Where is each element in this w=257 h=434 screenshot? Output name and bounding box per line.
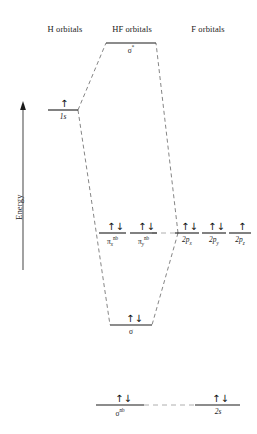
column-header-h-orbitals: H orbitals [28,24,102,34]
column-header-f-orbitals: F orbitals [172,24,244,34]
nonbonding-connectors [144,233,195,405]
orbital-label-sigma-star: σ* [111,44,151,55]
energy-axis-arrow [20,101,26,270]
electrons-sigma: ↑↓ [126,314,143,324]
orbital-label-pi-x-nb: πxnb [99,235,126,247]
electrons-f-2px: ↑↓ [181,222,198,232]
electrons-sigma-nb: ↑↓ [115,394,132,404]
correlation-lines [78,43,178,325]
orbital-label-sigma: σ [116,327,146,336]
electrons-pi-y-nb: ↑↓ [138,222,155,232]
orbital-label-sigma-nb: σnb [103,407,137,418]
orbital-label-f-2pz: 2pz [229,235,251,246]
orbital-label-f-2py: 2py [202,235,226,246]
electrons-f-2pz: ↑ [238,222,246,232]
electrons-h-1s: ↑ [60,99,68,109]
electrons-f-2s: ↑↓ [212,394,229,404]
orbital-label-f-2s: 2s [205,407,231,416]
electrons-f-2py: ↑↓ [208,222,225,232]
mo-diagram: H orbitals HF orbitals F orbitals [0,0,257,434]
orbital-label-pi-y-nb: πynb [130,235,157,247]
electrons-pi-x-nb: ↑↓ [107,222,124,232]
orbital-label-f-2px: 2px [175,235,199,246]
energy-axis-label: Energy [14,194,24,220]
orbital-label-h-1s: 1s [48,112,78,121]
column-header-hf-orbitals: HF orbitals [94,24,170,34]
diagram-vector-layer [0,0,257,434]
